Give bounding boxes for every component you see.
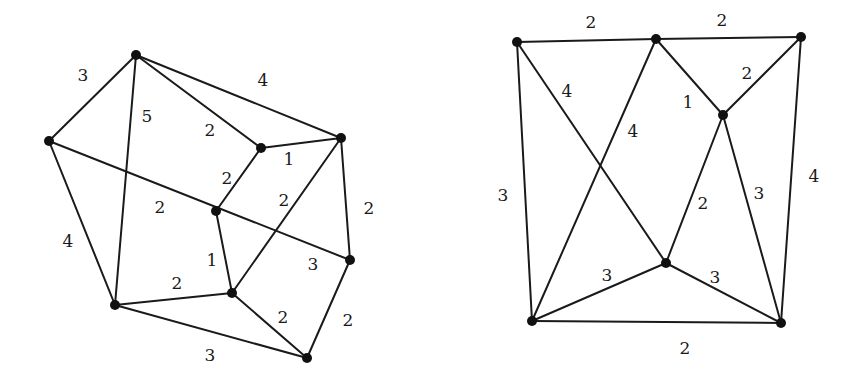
edge-weight-label: 2 [222, 168, 233, 188]
edge-b-f [49, 141, 350, 260]
edge-a-c [136, 55, 261, 148]
edge-weight-label: 3 [602, 265, 613, 285]
edge-weight-label: 4 [258, 70, 269, 90]
edge-weight-label: 2 [155, 197, 166, 217]
edge-weight-label: 1 [683, 92, 694, 112]
edge-weight-label: 5 [142, 106, 153, 126]
vertex-d [336, 133, 346, 143]
edge-q-r [656, 37, 801, 39]
edge-u-t [532, 263, 666, 321]
vertex-e [211, 206, 221, 216]
edge-weight-label: 1 [207, 250, 218, 270]
edge-c-d [261, 138, 341, 148]
vertex-c [256, 143, 266, 153]
edge-weight-label: 4 [809, 166, 820, 186]
edge-weight-label: 3 [710, 267, 721, 287]
edge-weight-label: 3 [754, 183, 765, 203]
edge-weight-label: 2 [343, 310, 354, 330]
edge-weight-label: 4 [63, 231, 74, 251]
vertex-t [661, 258, 671, 268]
edge-weight-label: 4 [562, 81, 573, 101]
vertex-a [131, 50, 141, 60]
vertex-p [512, 37, 522, 47]
edge-t-v [666, 263, 781, 323]
vertex-i [302, 353, 312, 363]
edge-e-g [216, 211, 232, 293]
vertex-b [44, 136, 54, 146]
edge-s-v [723, 115, 781, 323]
weighted-graphs-figure: 3452122224122233 2221443234332 [0, 0, 860, 389]
right-graph: 2221443234332 [498, 10, 820, 358]
edge-a-b [49, 55, 136, 141]
edge-weight-label: 2 [279, 190, 290, 210]
edge-weight-label: 4 [628, 121, 639, 141]
edge-p-t [517, 42, 666, 263]
edge-b-h [49, 141, 115, 305]
edge-weight-label: 2 [278, 307, 289, 327]
vertex-f [345, 255, 355, 265]
edge-weight-label: 2 [698, 193, 709, 213]
edge-h-g [115, 293, 232, 305]
edge-weight-label: 1 [284, 149, 295, 169]
vertex-s [718, 110, 728, 120]
edge-weight-label: 3 [308, 254, 319, 274]
edge-a-d [136, 55, 341, 138]
edge-u-v [532, 321, 781, 323]
edge-p-u [517, 42, 532, 321]
vertex-u [527, 316, 537, 326]
edge-p-q [517, 39, 656, 42]
vertex-v [776, 318, 786, 328]
edge-weight-label: 2 [717, 10, 728, 30]
edge-s-t [666, 115, 723, 263]
left-graph: 3452122224122233 [44, 50, 374, 365]
edge-r-s [723, 37, 801, 115]
edge-q-u [532, 39, 656, 321]
edge-a-h [115, 55, 136, 305]
vertex-q [651, 34, 661, 44]
edge-weight-label: 3 [205, 345, 216, 365]
edge-weight-label: 2 [680, 338, 691, 358]
vertex-g [227, 288, 237, 298]
edge-weight-label: 3 [78, 65, 89, 85]
edge-weight-label: 2 [742, 63, 753, 83]
edge-f-i [307, 260, 350, 358]
vertex-h [110, 300, 120, 310]
edge-r-v [781, 37, 801, 323]
edge-d-f [341, 138, 350, 260]
edge-weight-label: 2 [364, 198, 375, 218]
vertex-r [796, 32, 806, 42]
edge-weight-label: 2 [172, 273, 183, 293]
edge-weight-label: 3 [498, 185, 509, 205]
edge-weight-label: 2 [205, 120, 216, 140]
edge-weight-label: 2 [586, 12, 597, 32]
